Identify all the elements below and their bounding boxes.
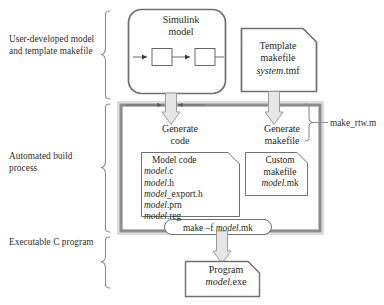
generate-code-line1: Generate <box>140 123 220 135</box>
simulink-model-line2: model <box>137 26 225 38</box>
template-makefile-filename: system.tmf <box>245 65 311 77</box>
brace-user-developed <box>101 11 110 99</box>
label-make-rtw-m: make_rtw.m <box>330 118 376 128</box>
section-label-automated-build: Automated build process <box>9 150 101 174</box>
model-code-file-stem: model <box>144 178 167 188</box>
make-command-prefix: make –f <box>183 223 216 233</box>
custom-makefile-line1: Custom <box>246 155 314 167</box>
make-command-stem: model <box>216 223 239 233</box>
custom-makefile-stem: model <box>261 178 284 188</box>
template-makefile-line1: Template <box>245 40 311 52</box>
model-code-file-4: model.prn <box>144 200 244 211</box>
generate-makefile-label: Generate makefile <box>242 123 322 148</box>
template-makefile-label: Template makefile system.tmf <box>245 40 311 77</box>
model-code-file-ext: .c <box>167 166 174 176</box>
brace-automated-build <box>101 104 110 232</box>
section-label-executable-c: Executable C program <box>9 236 101 248</box>
model-code-label: Model code model.cmodel.hmodel_export.hm… <box>144 155 244 223</box>
generate-makefile-line2: makefile <box>242 135 322 147</box>
custom-makefile-line2: makefile <box>246 167 314 179</box>
model-code-header: Model code <box>144 155 244 166</box>
program-label: Program model.exe <box>188 264 264 289</box>
down-arrow-generate-code <box>162 93 180 125</box>
generate-code-label: Generate code <box>140 123 220 148</box>
template-makefile-stem: system <box>256 65 283 76</box>
custom-makefile-filename: model.mk <box>246 178 314 190</box>
model-code-file-3: model_export.h <box>144 189 244 200</box>
custom-makefile-label: Custom makefile model.mk <box>246 155 314 190</box>
template-makefile-ext: .tmf <box>283 65 299 76</box>
diagram-canvas: User-developed model and template makefi… <box>0 0 384 305</box>
model-code-file-stem: model <box>144 200 167 210</box>
custom-makefile-ext: .mk <box>284 178 298 188</box>
model-code-file-stem: model <box>144 189 167 199</box>
model-code-file-2: model.h <box>144 178 244 189</box>
model-code-file-1: model.c <box>144 166 244 177</box>
generate-code-line2: code <box>140 135 220 147</box>
program-line1: Program <box>188 264 264 276</box>
section-label-user-developed: User-developed model and template makefi… <box>9 33 101 57</box>
model-code-file-ext: .h <box>167 178 174 188</box>
make-command-label: make –f model.mk <box>163 222 273 234</box>
template-makefile-line2: makefile <box>245 52 311 64</box>
model-code-file-ext: _export.h <box>167 189 203 199</box>
generate-makefile-line1: Generate <box>242 123 322 135</box>
model-code-file-ext: .prn <box>167 200 182 210</box>
model-code-file-stem: model <box>144 211 167 221</box>
program-ext: .exe <box>230 276 246 287</box>
down-arrow-program <box>213 231 231 264</box>
model-code-file-ext: .reg <box>167 211 181 221</box>
make-command-suffix: .mk <box>239 223 253 233</box>
model-code-file-list: model.cmodel.hmodel_export.hmodel.prnmod… <box>144 166 244 222</box>
model-code-file-stem: model <box>144 166 167 176</box>
simulink-model-label: Simulink model <box>137 14 225 39</box>
brace-executable-c <box>101 237 110 288</box>
simulink-model-line1: Simulink <box>137 14 225 26</box>
down-arrow-generate-makefile <box>265 92 283 125</box>
program-stem: model <box>206 276 230 287</box>
program-filename: model.exe <box>188 276 264 288</box>
